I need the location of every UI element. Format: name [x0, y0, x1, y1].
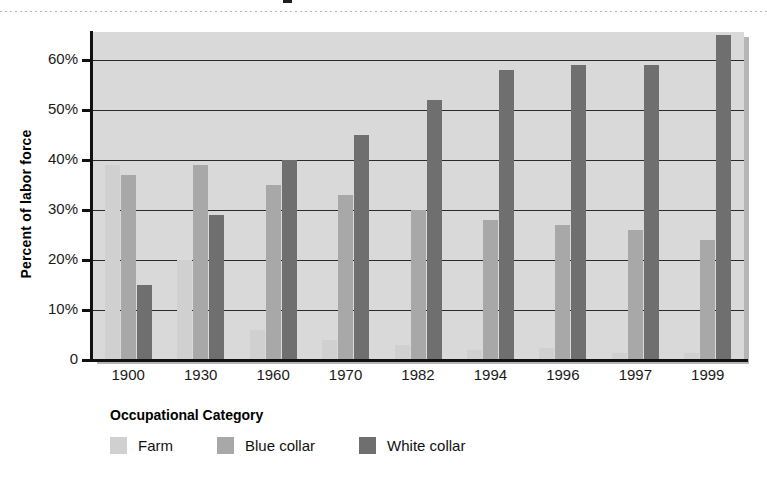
y-tick-30 [82, 209, 91, 212]
y-tick-label-50: 50% [0, 100, 78, 117]
legend-swatch-icon [359, 437, 376, 454]
y-axis-line [90, 31, 93, 362]
bar-1999-blue-collar [700, 240, 715, 360]
legend-item-blue-collar[interactable]: Blue collar [217, 437, 359, 454]
x-tick-label-1982: 1982 [383, 366, 453, 383]
bar-1900-white-collar [137, 285, 152, 360]
y-tick-label-60: 60% [0, 50, 78, 67]
bar-1994-blue-collar [483, 220, 498, 360]
legend-swatch-icon [217, 437, 234, 454]
bar-1970-blue-collar [338, 195, 353, 360]
x-tick-label-1970: 1970 [311, 366, 381, 383]
y-tick-label-20: 20% [0, 250, 78, 267]
y-tick-label-10: 10% [0, 300, 78, 317]
legend-item-farm[interactable]: Farm [110, 437, 217, 454]
gridline-60 [92, 60, 744, 61]
top-divider-rule [0, 11, 767, 12]
y-tick-0 [82, 359, 91, 362]
legend-swatch-icon [110, 437, 127, 454]
x-tick-label-1960: 1960 [238, 366, 308, 383]
bar-1999-white-collar [716, 35, 731, 360]
bar-1960-white-collar [282, 160, 297, 360]
bar-1994-white-collar [499, 70, 514, 360]
y-tick-label-40: 40% [0, 150, 78, 167]
bar-1996-blue-collar [555, 225, 570, 360]
bar-1930-farm [177, 260, 192, 360]
bar-1982-white-collar [427, 100, 442, 360]
bar-1982-farm [395, 345, 410, 360]
bar-1900-blue-collar [121, 175, 136, 360]
bar-1930-white-collar [209, 215, 224, 360]
legend-item-label: Farm [138, 437, 173, 454]
legend-item-label: White collar [387, 437, 465, 454]
bar-1930-blue-collar [193, 165, 208, 360]
y-tick-10 [82, 309, 91, 312]
bar-1970-white-collar [354, 135, 369, 360]
bar-1982-blue-collar [411, 210, 426, 360]
x-tick-label-1999: 1999 [673, 366, 743, 383]
chart-figure: Percent of labor force 010%20%30%40%50%6… [0, 0, 767, 484]
bar-1900-farm [105, 165, 120, 360]
bar-1997-blue-collar [628, 230, 643, 360]
legend-item-white-collar[interactable]: White collar [359, 437, 509, 454]
x-axis-line [90, 359, 748, 362]
bar-1970-farm [322, 340, 337, 360]
bar-1960-farm [250, 330, 265, 360]
x-tick-label-1900: 1900 [93, 366, 163, 383]
plot-area [92, 32, 744, 360]
legend-item-label: Blue collar [245, 437, 315, 454]
y-tick-50 [82, 109, 91, 112]
legend-title: Occupational Category [110, 407, 263, 423]
bar-1960-blue-collar [266, 185, 281, 360]
y-tick-20 [82, 259, 91, 262]
x-tick-label-1997: 1997 [600, 366, 670, 383]
y-tick-40 [82, 159, 91, 162]
y-tick-label-0: 0 [0, 350, 78, 367]
y-tick-label-30: 30% [0, 200, 78, 217]
x-tick-label-1930: 1930 [166, 366, 236, 383]
x-tick-label-1996: 1996 [528, 366, 598, 383]
bar-1996-white-collar [571, 65, 586, 360]
legend: FarmBlue collarWhite collar [110, 437, 509, 454]
cropped-title-glyph [283, 0, 292, 3]
y-tick-60 [82, 59, 91, 62]
bar-1997-white-collar [644, 65, 659, 360]
x-tick-label-1994: 1994 [455, 366, 525, 383]
